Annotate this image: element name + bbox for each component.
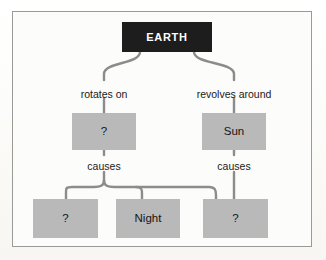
edge-label-causes-right: causes <box>210 160 258 172</box>
node-earth-label: EARTH <box>146 31 187 43</box>
node-day[interactable]: ? <box>33 199 98 238</box>
node-seasons-label: ? <box>232 212 238 225</box>
node-sun[interactable]: Sun <box>202 113 266 150</box>
node-axis[interactable]: ? <box>72 113 136 150</box>
node-earth[interactable]: EARTH <box>122 22 212 52</box>
diagram-page: EARTH ? Sun ? Night ? rotates on revolve… <box>0 0 326 260</box>
edge-label-rotates-on: rotates on <box>68 88 140 100</box>
node-seasons[interactable]: ? <box>203 199 268 238</box>
node-night-label: Night <box>135 212 162 225</box>
edge-label-revolves-around: revolves around <box>182 88 286 100</box>
edge-label-causes-left: causes <box>80 160 128 172</box>
node-sun-label: Sun <box>224 125 244 138</box>
node-axis-label: ? <box>101 125 107 138</box>
node-night[interactable]: Night <box>116 199 180 238</box>
node-day-label: ? <box>62 212 68 225</box>
